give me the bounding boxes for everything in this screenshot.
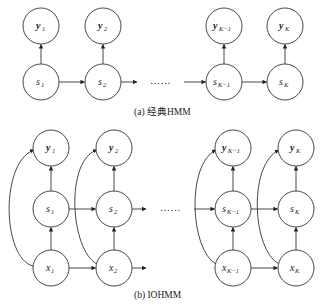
node-s1: s1	[23, 64, 59, 100]
panel-b-ellipsis: ……	[160, 202, 181, 213]
svg-text:K−1: K−1	[217, 81, 230, 88]
svg-text:y: y	[45, 142, 51, 153]
panel-a-caption: (a) 经典HMM	[134, 106, 191, 118]
svg-text:K: K	[283, 81, 289, 88]
node-y2: y2	[96, 130, 132, 166]
node-x2: x2	[96, 250, 132, 286]
node-xK-1: xK−1	[215, 250, 251, 286]
svg-text:y: y	[108, 142, 114, 153]
svg-text:s: s	[36, 76, 40, 87]
edge-xK1-yK-curve	[257, 150, 279, 264]
svg-text:K−1: K−1	[226, 208, 239, 215]
svg-text:1: 1	[41, 81, 44, 88]
node-x1: x1	[33, 250, 69, 286]
svg-text:s: s	[222, 203, 226, 214]
node-yK: yK	[267, 8, 303, 44]
svg-text:K−1: K−1	[227, 147, 240, 154]
svg-text:y: y	[278, 20, 284, 31]
svg-text:y: y	[289, 142, 295, 153]
svg-text:1: 1	[51, 208, 54, 215]
svg-text:K−1: K−1	[218, 25, 231, 32]
node-sK: sK	[278, 191, 314, 227]
svg-text:y: y	[212, 20, 218, 31]
svg-text:1: 1	[52, 147, 55, 154]
svg-text:1: 1	[42, 25, 45, 32]
svg-text:K−1: K−1	[226, 267, 239, 274]
svg-text:y: y	[35, 20, 41, 31]
svg-text:s: s	[290, 203, 294, 214]
node-y1: y1	[33, 130, 69, 166]
node-xK: xK	[278, 250, 314, 286]
edge-xK2-yK1-curve	[195, 150, 216, 264]
svg-text:y: y	[97, 20, 103, 31]
svg-text:s: s	[213, 76, 217, 87]
node-sK: sK	[267, 64, 303, 100]
node-yK-1: yK−1	[215, 130, 251, 166]
node-y2: y2	[85, 8, 121, 44]
svg-text:K: K	[295, 147, 301, 154]
node-sK-1: sK−1	[206, 64, 242, 100]
node-yK-1: yK−1	[206, 8, 242, 44]
svg-text:s: s	[279, 76, 283, 87]
svg-text:K: K	[294, 267, 300, 274]
diagram-canvas: …… y1 s1 y2 s2 yK−1 sK−1 yK sK (a) 经典HMM	[0, 0, 324, 304]
svg-text:s: s	[46, 203, 50, 214]
node-s1: s1	[33, 191, 69, 227]
edge-x1-y1-curve	[9, 150, 34, 266]
node-yK: yK	[278, 130, 314, 166]
panel-a-classic-hmm: …… y1 s1 y2 s2 yK−1 sK−1 yK sK (a) 经典HMM	[23, 8, 303, 118]
node-sK-1: sK−1	[215, 191, 251, 227]
svg-text:s: s	[109, 203, 113, 214]
svg-text:s: s	[98, 76, 102, 87]
panel-a-ellipsis: ……	[150, 75, 171, 86]
node-y1: y1	[23, 8, 59, 44]
panel-b-caption: (b) IOHMM	[134, 290, 182, 301]
node-s2: s2	[85, 64, 121, 100]
edge-x1-y2-curve	[75, 150, 97, 264]
node-s2: s2	[96, 191, 132, 227]
svg-text:1: 1	[51, 267, 54, 274]
svg-text:y: y	[221, 142, 227, 153]
svg-text:K: K	[294, 208, 300, 215]
svg-text:K: K	[284, 25, 290, 32]
panel-b-iohmm: …… y1 s1 x1 y2 s2 x2 yK−1 sK−1 xK−1 yK s…	[9, 130, 314, 301]
